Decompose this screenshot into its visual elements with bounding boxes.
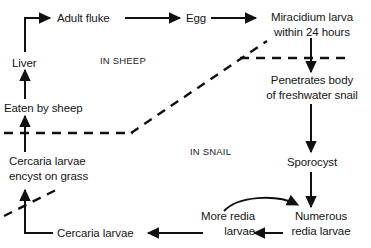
node-cercaria-larvae: Cercaria larvae (57, 226, 133, 241)
node-sporocyst-label: Sporocyst (287, 156, 337, 168)
node-more-redia-line2: larvae (193, 224, 255, 239)
node-sporocyst: Sporocyst (262, 155, 362, 170)
node-penetrates-body: Penetrates body of freshwater snail (256, 73, 368, 103)
node-penetrates-body-line1: Penetrates body (256, 73, 368, 88)
node-cercaria-encyst-on-grass: Cercaria larvae encyst on grass (9, 154, 88, 184)
region-in-snail-text: IN SNAIL (190, 146, 231, 157)
node-cercaria-encyst-line2: encyst on grass (9, 169, 88, 184)
node-more-redia-line1: More redia (193, 209, 255, 224)
region-label-in-snail: IN SNAIL (190, 146, 231, 157)
node-egg: Egg (186, 11, 206, 26)
node-cercaria-larvae-label: Cercaria larvae (57, 227, 133, 239)
dashed-boundary-diagonal (131, 41, 267, 133)
liver-fluke-life-cycle-diagram: Adult fluke Egg Miracidium larva within … (0, 0, 371, 248)
node-miracidium-larva-line2: within 24 hours (256, 25, 368, 40)
node-miracidium-larva-line1: Miracidium larva (256, 10, 368, 25)
node-egg-label: Egg (186, 12, 206, 24)
arrow-liver-to-adult-fluke (25, 18, 50, 52)
node-adult-fluke-label: Adult fluke (57, 12, 110, 24)
node-cercaria-encyst-line1: Cercaria larvae (9, 154, 88, 169)
node-eaten-by-sheep: Eaten by sheep (4, 101, 83, 116)
node-liver: Liver (12, 56, 36, 71)
node-penetrates-body-line2: of freshwater snail (256, 88, 368, 103)
node-numerous-redia-line1: Numerous (274, 209, 368, 224)
node-liver-label: Liver (12, 57, 36, 69)
node-more-redia-larvae: More redia larvae (193, 209, 255, 239)
node-numerous-redia-larvae: Numerous redia larvae (274, 209, 368, 239)
dashed-boundary-lower-left-diagonal (4, 189, 58, 216)
node-numerous-redia-line2: redia larvae (274, 224, 368, 239)
node-adult-fluke: Adult fluke (57, 11, 110, 26)
node-miracidium-larva: Miracidium larva within 24 hours (256, 10, 368, 40)
arrow-cercaria-larvae-to-encyst (25, 190, 53, 233)
node-eaten-by-sheep-label: Eaten by sheep (4, 102, 83, 114)
region-in-sheep-text: IN SHEEP (100, 55, 146, 66)
region-label-in-sheep: IN SHEEP (100, 55, 146, 66)
